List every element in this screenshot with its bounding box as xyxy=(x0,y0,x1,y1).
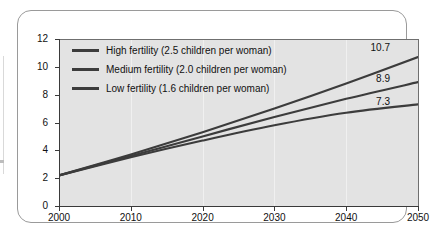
x-tick xyxy=(131,207,132,211)
y-tick-label: 0 xyxy=(22,201,48,211)
scan-edge-mark xyxy=(0,160,4,163)
end-label-low: 7.3 xyxy=(356,96,390,107)
y-tick-label: 12 xyxy=(22,34,48,44)
legend-label-medium: Medium fertility (2.0 children per woman… xyxy=(106,64,287,75)
x-tick-label: 2010 xyxy=(111,212,151,223)
y-tick-label: 2 xyxy=(22,173,48,183)
legend: High fertility (2.5 children per woman) … xyxy=(72,42,287,99)
legend-label-low: Low fertility (1.6 children per woman) xyxy=(106,83,269,94)
series-line-low xyxy=(59,104,418,175)
x-tick-label: 2020 xyxy=(183,212,223,223)
legend-label-high: High fertility (2.5 children per woman) xyxy=(106,45,272,56)
legend-swatch-medium-icon xyxy=(72,68,99,71)
legend-swatch-low-icon xyxy=(72,87,99,90)
x-tick xyxy=(346,207,347,211)
x-tick-label: 2050 xyxy=(398,212,434,223)
legend-item-low: Low fertility (1.6 children per woman) xyxy=(72,80,287,96)
x-tick xyxy=(59,207,60,211)
legend-item-high: High fertility (2.5 children per woman) xyxy=(72,42,287,58)
legend-item-medium: Medium fertility (2.0 children per woman… xyxy=(72,61,287,77)
y-tick-label: 6 xyxy=(22,118,48,128)
end-label-high: 10.7 xyxy=(356,42,390,53)
end-label-medium: 8.9 xyxy=(356,73,390,84)
scan-edge-artifact xyxy=(3,56,4,174)
y-tick-label: 8 xyxy=(22,90,48,100)
x-tick-label: 2030 xyxy=(254,212,294,223)
x-tick xyxy=(418,207,419,211)
x-tick-label: 2000 xyxy=(39,212,79,223)
y-tick-label: 10 xyxy=(22,62,48,72)
chart-panel: 121086420 200020102020203020402050 High … xyxy=(17,10,407,223)
x-tick xyxy=(274,207,275,211)
legend-swatch-high-icon xyxy=(72,49,99,52)
x-axis-line xyxy=(59,206,419,207)
x-tick xyxy=(203,207,204,211)
plot-right-border xyxy=(418,39,419,207)
y-tick-label: 4 xyxy=(22,145,48,155)
x-tick-label: 2040 xyxy=(326,212,366,223)
